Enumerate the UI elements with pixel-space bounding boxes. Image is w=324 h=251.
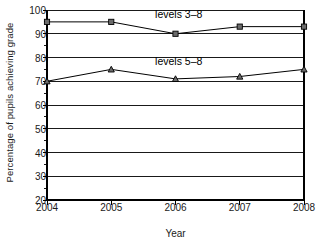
line-chart: Percentage of pupils achieving grade 203… bbox=[0, 0, 324, 251]
x-axis-tick-label: 2006 bbox=[164, 202, 186, 213]
y-axis-tick-labels: 2030405060708090100 bbox=[20, 0, 46, 205]
data-point-marker-1 bbox=[237, 24, 242, 29]
plot-svg: levels 3–8levels 5–8 bbox=[47, 10, 304, 200]
x-axis-title: Year bbox=[47, 228, 304, 239]
x-axis-tick-label: 2007 bbox=[229, 202, 251, 213]
series-annotation-2: levels 5–8 bbox=[155, 55, 202, 67]
data-point-marker-1 bbox=[173, 31, 178, 36]
x-axis-tick-labels: 20042005200620072008 bbox=[47, 202, 304, 220]
x-axis-tick-label: 2005 bbox=[100, 202, 122, 213]
data-point-marker-1 bbox=[44, 19, 49, 24]
x-axis-tick-label: 2008 bbox=[293, 202, 315, 213]
data-point-marker-1 bbox=[109, 19, 114, 24]
y-axis-title-container: Percentage of pupils achieving grade bbox=[0, 0, 20, 205]
series-annotation-1: levels 3–8 bbox=[155, 8, 202, 20]
data-point-marker-1 bbox=[301, 24, 306, 29]
plot-area: levels 3–8levels 5–8 bbox=[47, 10, 304, 200]
x-axis-tick-label: 2004 bbox=[36, 202, 58, 213]
y-axis-title: Percentage of pupils achieving grade bbox=[5, 23, 16, 183]
data-point-marker-2 bbox=[108, 66, 114, 72]
